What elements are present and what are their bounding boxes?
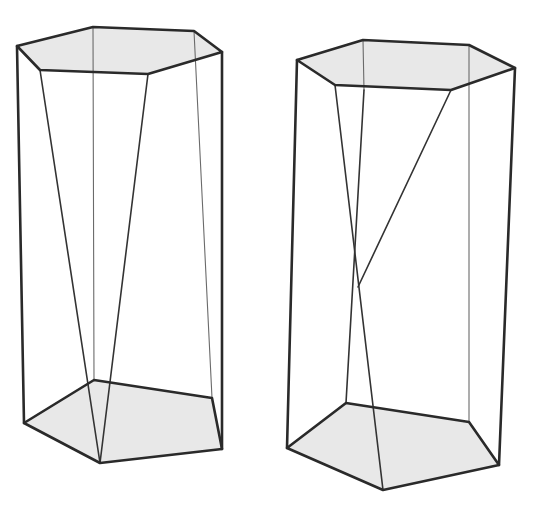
- bottom-face: [24, 380, 222, 463]
- top-face: [17, 27, 222, 74]
- slant-edge: [346, 90, 364, 403]
- back-edge: [93, 27, 94, 380]
- left-prism-figure: [17, 27, 222, 463]
- slant-edge: [358, 90, 451, 287]
- back-edge: [194, 31, 212, 398]
- side-edge: [499, 68, 515, 465]
- prism-diagram: [0, 0, 533, 514]
- right-prism-figure: [287, 40, 515, 490]
- side-edge: [287, 60, 297, 448]
- bottom-face: [287, 403, 499, 490]
- side-edge: [17, 46, 24, 423]
